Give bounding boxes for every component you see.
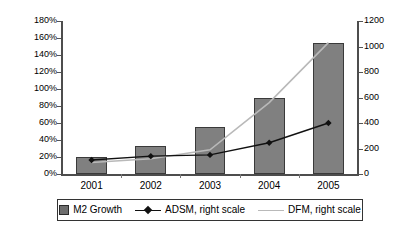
legend-item[interactable]: DFM, right scale (258, 205, 361, 215)
legend-square-icon (59, 205, 69, 215)
legend-label: DFM, right scale (288, 205, 361, 215)
x-tick (240, 174, 241, 178)
x-tick (299, 174, 300, 178)
legend-line-diamond-icon (135, 206, 161, 214)
x-axis-label: 2002 (121, 181, 181, 191)
x-axis-label: 2001 (62, 181, 122, 191)
legend-item[interactable]: M2 Growth (59, 205, 122, 215)
legend-label: M2 Growth (73, 205, 122, 215)
plot-area: 0%20%40%60%80%100%120%140%160%180% 02004… (0, 0, 420, 196)
x-tick (180, 174, 181, 178)
legend-label: ADSM, right scale (165, 205, 245, 215)
x-axis-label: 2004 (239, 181, 299, 191)
chart-legend: M2 GrowthADSM, right scaleDFM, right sca… (57, 199, 363, 221)
adsm-markers (88, 120, 331, 163)
adsm-marker (207, 152, 213, 158)
dfm-line (92, 43, 329, 163)
adsm-marker (266, 140, 272, 146)
x-axis-label: 2003 (180, 181, 240, 191)
legend-item[interactable]: ADSM, right scale (135, 205, 245, 215)
chart-container: 0%20%40%60%80%100%120%140%160%180% 02004… (0, 0, 420, 234)
line-series-layer (0, 0, 420, 196)
adsm-marker (325, 120, 331, 126)
legend-line-icon (258, 206, 284, 214)
x-axis-label: 2005 (298, 181, 358, 191)
x-tick (121, 174, 122, 178)
